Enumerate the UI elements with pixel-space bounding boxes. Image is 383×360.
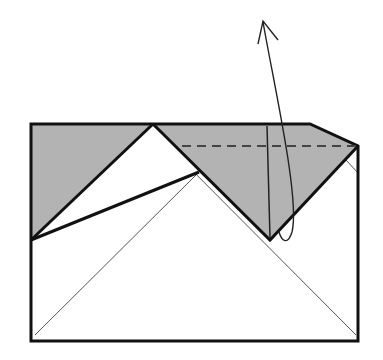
origami-diagram: [0, 0, 383, 360]
